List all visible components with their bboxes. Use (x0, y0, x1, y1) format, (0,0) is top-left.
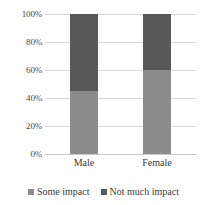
bar-segment-female-1[interactable] (143, 14, 171, 70)
bar-segment-male-0[interactable] (70, 91, 98, 154)
gridline-0 (45, 154, 196, 155)
y-axis-tick-80: 80% (2, 38, 42, 47)
y-axis: 100% 80% 60% 40% 20% 0% (0, 0, 42, 205)
x-axis: Male Female (45, 157, 196, 173)
y-axis-tick-20: 20% (2, 122, 42, 131)
y-axis-tick-0: 0% (2, 150, 42, 159)
legend: Some impact Not much impact (0, 186, 207, 197)
plot-area (45, 14, 196, 154)
legend-item-some-impact[interactable]: Some impact (28, 186, 90, 197)
y-axis-tick-60: 60% (2, 66, 42, 75)
gridline-40 (45, 98, 196, 99)
legend-label-not-much-impact: Not much impact (110, 186, 179, 197)
x-axis-label-male: Male (60, 157, 108, 169)
y-axis-tick-100: 100% (2, 10, 42, 19)
legend-swatch-icon (28, 189, 34, 195)
bar-segment-female-0[interactable] (143, 70, 171, 154)
gridline-60 (45, 70, 196, 71)
gridline-20 (45, 126, 196, 127)
gridline-80 (45, 42, 196, 43)
stacked-bar-chart: 100% 80% 60% 40% 20% 0% Male Female Some… (0, 0, 207, 205)
legend-item-not-much-impact[interactable]: Not much impact (101, 186, 179, 197)
gridline-100 (45, 14, 196, 15)
bar-segment-male-1[interactable] (70, 14, 98, 91)
x-axis-label-female: Female (133, 157, 181, 169)
legend-swatch-icon (101, 189, 107, 195)
legend-label-some-impact: Some impact (37, 186, 90, 197)
y-axis-tick-40: 40% (2, 94, 42, 103)
